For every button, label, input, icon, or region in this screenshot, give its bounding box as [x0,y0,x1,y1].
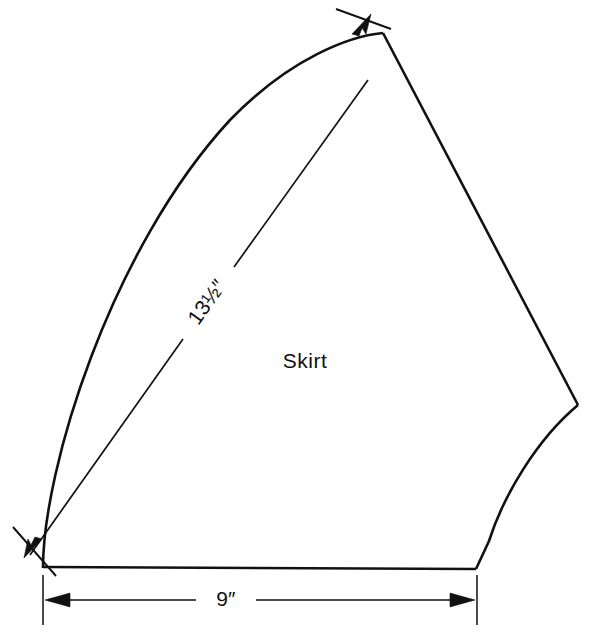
bottom-edge [43,567,476,569]
radius-extension-tick-bottom [13,527,56,576]
width-dimension-label: 9″ [216,587,236,610]
width-dimension-group: 9″ [43,575,477,625]
skirt-pattern-diagram: 13½″ 9″ Skirt [0,0,589,636]
hem-concave-curve [476,405,578,569]
radius-dimension-line-lower [30,339,183,555]
right-side-seam-edge [383,33,578,405]
radius-dimension-line-upper [234,80,368,267]
radius-dimension-group: 13½″ [13,9,391,576]
radius-dimension-label: 13½″ [183,275,231,329]
width-arrowhead-right [450,593,475,607]
piece-name-label: Skirt [283,349,328,372]
pattern-outline-group [43,33,578,569]
radius-dimension-label-group: 13½″ [183,275,231,329]
pattern-drawing-canvas: 13½″ 9″ Skirt [0,0,589,636]
width-arrowhead-left [45,593,70,607]
radius-arrowhead-lower [24,537,42,558]
